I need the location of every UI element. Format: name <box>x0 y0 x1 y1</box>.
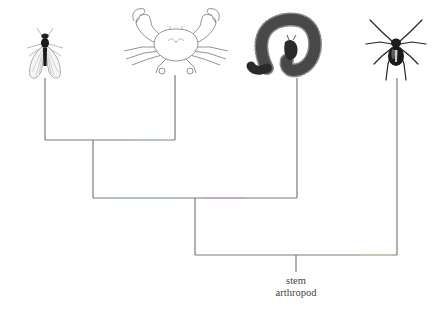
millipede-icon <box>251 20 315 71</box>
root-label-line2: arthropod <box>246 287 346 299</box>
spider-icon <box>366 20 426 80</box>
cladogram-branches <box>45 75 397 272</box>
root-label: stem arthropod <box>246 275 346 299</box>
crab-icon <box>124 9 228 74</box>
fly-icon <box>27 28 63 78</box>
root-label-line1: stem <box>246 275 346 287</box>
cladogram <box>0 0 446 312</box>
